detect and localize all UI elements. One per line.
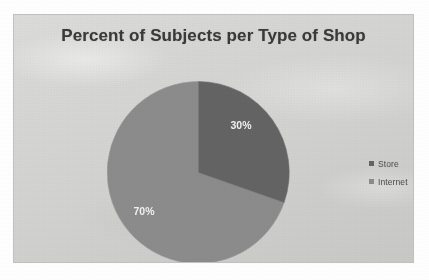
pie-chart: 30% 70% bbox=[107, 81, 290, 263]
scanned-page-background: Percent of Subjects per Type of Shop 30%… bbox=[0, 0, 429, 280]
chart-legend: Store Internet bbox=[369, 155, 414, 191]
legend-item-internet[interactable]: Internet bbox=[369, 173, 414, 190]
legend-item-label: Store bbox=[378, 159, 399, 169]
legend-item-store[interactable]: Store bbox=[369, 155, 414, 172]
square-marker-icon bbox=[369, 161, 374, 166]
pie-chart-svg: 30% 70% bbox=[107, 81, 290, 263]
chart-title: Percent of Subjects per Type of Shop bbox=[14, 26, 413, 46]
pie-label-store: 30% bbox=[230, 119, 252, 131]
square-marker-icon bbox=[369, 179, 374, 184]
chart-frame: Percent of Subjects per Type of Shop 30%… bbox=[13, 14, 414, 263]
pie-label-internet: 70% bbox=[133, 205, 155, 217]
legend-item-label: Internet bbox=[378, 177, 408, 187]
